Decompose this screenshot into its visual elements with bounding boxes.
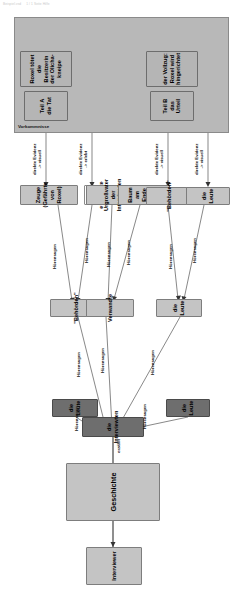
diagram-page: Beispiel.vsd 1 / 1 Seite Hilfe Vorkommni… bbox=[0, 0, 244, 599]
node-roxel-toetet[interactable]: Roxel tötet die Besitzerin der Olicha- k… bbox=[20, 51, 72, 87]
node-die-leute-mitte[interactable]: die Leute bbox=[156, 299, 202, 317]
node-die-leute-rechts[interactable]: die Leute bbox=[166, 399, 210, 417]
edge-label-hoerensagen-4: Hörensagen bbox=[100, 348, 105, 373]
edge-label-direkte-visuell-3: direkte Evidenz -> visuell bbox=[194, 143, 204, 175]
node-die-interviewten[interactable]: die Interviewten bbox=[82, 417, 144, 437]
node-label: der Vollzug: Roxel wird hingerichtet bbox=[162, 53, 183, 85]
edge-label-direkte-visuell-2: direkte Evidenz -> visuell bbox=[154, 143, 164, 175]
node-die-leute-unten[interactable]: die Leute bbox=[186, 187, 230, 205]
edge-label-hoerensagen-5: Hörensagen bbox=[150, 350, 155, 375]
edge-label-direkte-visuell-1: direkte Evidenz -> visuell bbox=[32, 143, 42, 175]
node-verwandte[interactable]: Verwandte bbox=[86, 299, 134, 317]
edge-label-hoerensagen-9: Hörensagen bbox=[126, 240, 131, 265]
node-vollzug[interactable]: der Vollzug: Roxel wird hingerichtet bbox=[146, 51, 198, 87]
node-label: Verwandte bbox=[107, 294, 114, 322]
edge-label-hoerensagen-7: Hörensagen bbox=[84, 238, 89, 263]
node-label: die Leute bbox=[201, 189, 215, 204]
node-label: Zeuge (Gefährte von Roxel) bbox=[35, 183, 63, 208]
node-label: Interviewer bbox=[111, 551, 118, 581]
edge-label-hoerensagen-1: Hörensagen bbox=[74, 406, 79, 431]
node-teil-a[interactable]: Teil A die Tat bbox=[24, 91, 68, 121]
node-label: Roxel tötet die Besitzerin der Olicha- k… bbox=[29, 54, 64, 84]
node-geschichte[interactable]: Geschichte bbox=[66, 463, 160, 521]
node-label: Teil A die Tat bbox=[39, 97, 53, 115]
node-interviewer[interactable]: Interviewer bbox=[86, 547, 142, 585]
diagram-canvas: Vorkommnisse bbox=[0, 0, 244, 599]
node-zeuge[interactable]: Zeuge (Gefährte von Roxel) bbox=[20, 185, 78, 205]
edge-label-hoerensagen-11: Hörensagen bbox=[192, 238, 197, 263]
node-label: die Leute bbox=[181, 401, 195, 416]
node-label: die Leute bbox=[172, 301, 186, 316]
edge-label-hoerensagen-3: Hörensagen bbox=[76, 352, 81, 377]
edge-label-erzaehlt: erzählt bbox=[116, 439, 121, 453]
swimlane-label: Vorkommnisse bbox=[18, 124, 49, 129]
edge-label-hoerensagen-6: Hörensagen bbox=[52, 244, 57, 269]
node-label: "Behörden" bbox=[73, 292, 80, 323]
diagram-canvas-wrapper: Vorkommnisse bbox=[0, 0, 244, 599]
edge-label-hoerensagen-10: Hörensagen bbox=[168, 244, 173, 269]
node-label: Teil B das Urteil bbox=[162, 94, 183, 118]
node-label: Geschichte bbox=[109, 473, 118, 512]
node-teil-b[interactable]: Teil B das Urteil bbox=[150, 91, 194, 121]
node-label: "Behörden" bbox=[166, 180, 173, 211]
edge-label-hoerensagen-8: Hörensagen bbox=[106, 242, 111, 267]
edge-label-direkte-erlebt: direkte Evidenz -> erlebt bbox=[78, 143, 88, 175]
edge-label-hoerensagen-2: Hörensagen bbox=[142, 404, 147, 429]
